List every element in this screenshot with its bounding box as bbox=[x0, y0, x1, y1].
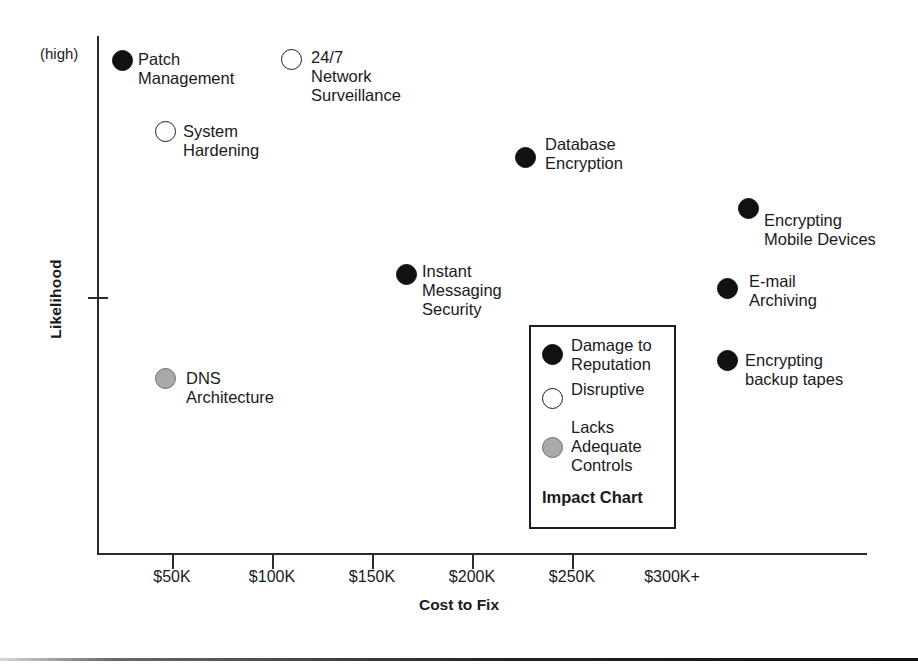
y-axis-high-annotation: (high) bbox=[40, 45, 78, 62]
data-point-label: Patch Management bbox=[138, 50, 234, 88]
x-axis-tick bbox=[572, 555, 574, 569]
data-point-label: DNS Architecture bbox=[186, 369, 274, 407]
legend-swatch[interactable] bbox=[542, 344, 563, 365]
x-axis-tick-label: $250K bbox=[517, 568, 627, 586]
legend-box: Damage to ReputationDisruptiveLacks Adeq… bbox=[529, 325, 676, 529]
legend-swatch[interactable] bbox=[542, 437, 563, 458]
x-axis-tick bbox=[272, 555, 274, 569]
legend-label: Lacks Adequate Controls bbox=[571, 418, 642, 475]
data-point-marker[interactable] bbox=[738, 198, 759, 219]
x-axis-tick-label: $50K bbox=[117, 568, 227, 586]
data-point-marker[interactable] bbox=[155, 121, 176, 142]
data-point-label: E-mail Archiving bbox=[749, 272, 817, 310]
data-point-marker[interactable] bbox=[281, 49, 302, 70]
x-axis-line bbox=[97, 553, 867, 555]
data-point-label: System Hardening bbox=[183, 122, 259, 160]
x-axis-tick bbox=[172, 555, 174, 569]
data-point-label: Database Encryption bbox=[545, 135, 623, 173]
data-point-label: 24/7 Network Surveillance bbox=[311, 48, 401, 105]
impact-chart-figure: (high) Likelihood Cost to Fix $50K$100K$… bbox=[0, 0, 918, 669]
x-axis-tick bbox=[472, 555, 474, 569]
x-axis-tick-label: $100K bbox=[217, 568, 327, 586]
legend-title: Impact Chart bbox=[542, 488, 643, 507]
data-point-label: Encrypting Mobile Devices bbox=[764, 211, 876, 249]
data-point-label: Instant Messaging Security bbox=[422, 262, 502, 319]
x-axis-title: Cost to Fix bbox=[0, 596, 918, 614]
y-axis-tick bbox=[88, 297, 108, 299]
data-point-marker[interactable] bbox=[155, 368, 176, 389]
scan-artifact-line bbox=[0, 658, 918, 661]
data-point-marker[interactable] bbox=[112, 50, 133, 71]
x-axis-tick-label: $150K bbox=[317, 568, 427, 586]
legend-swatch[interactable] bbox=[542, 388, 563, 409]
data-point-marker[interactable] bbox=[717, 278, 738, 299]
data-point-marker[interactable] bbox=[717, 350, 738, 371]
data-point-marker[interactable] bbox=[396, 264, 417, 285]
data-point-label: Encrypting backup tapes bbox=[745, 351, 843, 389]
y-axis-line bbox=[97, 36, 99, 555]
legend-label: Damage to Reputation bbox=[571, 336, 652, 374]
x-axis-tick-label: $300K+ bbox=[617, 568, 727, 586]
x-axis-tick-label: $200K bbox=[417, 568, 527, 586]
data-point-marker[interactable] bbox=[515, 147, 536, 168]
y-axis-title: Likelihood bbox=[47, 229, 65, 369]
x-axis-tick bbox=[372, 555, 374, 569]
legend-label: Disruptive bbox=[571, 380, 644, 399]
